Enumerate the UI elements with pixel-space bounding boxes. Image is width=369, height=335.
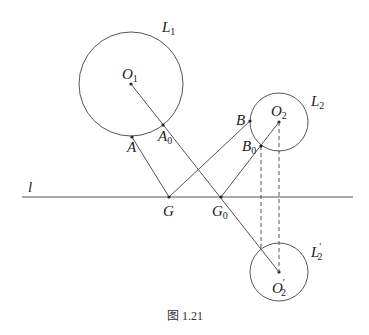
circle-L2-prime-label: L′2 (310, 241, 323, 262)
segment-G0-O2 (221, 122, 279, 197)
point-A0-label: A0 (157, 128, 172, 146)
segment-G-B (169, 121, 250, 197)
center-O2-label: O2 (271, 103, 287, 121)
point-G-label: G (163, 203, 174, 219)
figure-caption: 图 1.21 (167, 309, 203, 323)
point-A-label: A (126, 139, 137, 155)
circle-L2-label: L2 (310, 93, 324, 111)
point-G (167, 195, 170, 198)
point-B-label: B (236, 112, 245, 128)
point-G0-label: G0 (212, 203, 228, 221)
segment-O1-O2prime (131, 84, 279, 272)
point-B0 (259, 144, 262, 147)
center-O2-prime-label: O′2 (272, 277, 286, 298)
segment-A-G (132, 137, 169, 197)
point-B0-label: B0 (242, 138, 256, 156)
point-A0 (161, 123, 164, 126)
point-G0 (219, 195, 222, 198)
point-B (248, 119, 251, 122)
geometry-figure: l L1 O1 L2 O2 L′2 O′2 A A0 B B0 G G0 图 1… (0, 0, 369, 335)
circle-L1-label: L1 (161, 19, 175, 37)
line-l-label: l (28, 179, 32, 195)
center-O1-label: O1 (122, 66, 138, 84)
